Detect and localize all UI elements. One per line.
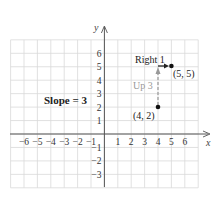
rise-arrow-head-icon <box>156 67 161 74</box>
x-tick-label: −5 <box>32 137 42 147</box>
point-label-4-2: (4, 2) <box>133 110 155 122</box>
slope-label: Slope = 3 <box>44 94 87 106</box>
y-tick-label: −3 <box>91 170 101 180</box>
x-tick-label: 3 <box>142 137 147 147</box>
x-tick-labels: −6−5−4−3−2−1123456 <box>19 137 187 147</box>
y-tick-label: 6 <box>97 49 102 59</box>
x-tick-label: −6 <box>19 137 29 147</box>
y-axis-label: y <box>93 22 99 33</box>
x-tick-label: −4 <box>46 137 56 147</box>
y-tick-labels: 654321−1−2−3 <box>91 49 101 180</box>
run-arrow-head-icon <box>164 64 169 69</box>
x-tick-label: 5 <box>169 137 174 147</box>
y-tick-label: −1 <box>91 143 101 153</box>
point-label-5-5: (5, 5) <box>173 68 195 80</box>
point-4-2 <box>156 105 161 110</box>
y-tick-label: 1 <box>97 116 102 126</box>
x-tick-label: 1 <box>115 137 120 147</box>
y-tick-label: −2 <box>91 156 101 166</box>
x-axis-label: x <box>205 137 211 148</box>
x-tick-label: 2 <box>129 137 134 147</box>
y-tick-label: 5 <box>97 62 102 72</box>
run-label: Right 1 <box>135 54 165 65</box>
x-tick-label: 6 <box>182 137 187 147</box>
rise-label: Up 3 <box>133 80 153 91</box>
y-tick-label: 2 <box>97 103 102 113</box>
x-tick-label: −3 <box>59 137 69 147</box>
axes: x y <box>10 22 211 187</box>
y-tick-label: 3 <box>97 89 102 99</box>
coordinate-plane: x y −6−5−4−3−2−1123456 654321−1−2−3 Slop… <box>0 0 223 198</box>
y-tick-label: 4 <box>97 76 102 86</box>
x-tick-label: 4 <box>156 137 161 147</box>
x-tick-label: −2 <box>73 137 83 147</box>
